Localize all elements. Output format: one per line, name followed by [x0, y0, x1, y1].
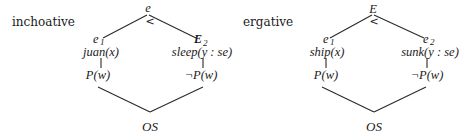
right-event-symbol: e [423, 32, 429, 46]
ergative-label: ergative [243, 15, 293, 29]
right-state: ¬P(w) [411, 68, 444, 82]
left-predicate: ship(x) [310, 45, 345, 59]
edge-bottom-right [150, 87, 203, 112]
top-node-symbol: E [368, 2, 377, 16]
left-event-symbol: e [93, 32, 99, 46]
left-state: P(w) [85, 68, 110, 82]
edge-top-right [374, 15, 424, 38]
edge-top-right [149, 15, 196, 38]
right-predicate: sunk(y : se) [401, 45, 459, 59]
left-state: P(w) [313, 68, 338, 82]
edge-top-left [330, 15, 372, 38]
right-state: ¬P(w) [185, 68, 218, 82]
edge-top-left [103, 15, 147, 38]
bottom-node-os: OS [142, 119, 158, 134]
edge-bottom-left [98, 87, 150, 112]
bottom-node-os: OS [366, 119, 382, 134]
event-structure-diagrams: inchoative e < e 1 juan(x) E 2 sleep(y :… [0, 0, 472, 139]
left-predicate: juan(x) [81, 45, 119, 59]
top-node-symbol: e [145, 1, 151, 15]
inchoative-diagram: inchoative e < e 1 juan(x) E 2 sleep(y :… [12, 1, 232, 134]
inchoative-label: inchoative [12, 15, 75, 29]
ergative-diagram: ergative E < e 1 ship(x) e 2 sunk(y : se… [243, 2, 459, 134]
right-event-symbol: E [193, 32, 202, 46]
edge-bottom-right [374, 87, 426, 112]
left-event-symbol: e [323, 32, 329, 46]
right-predicate: sleep(y : se) [172, 45, 232, 59]
edge-bottom-left [322, 87, 374, 112]
